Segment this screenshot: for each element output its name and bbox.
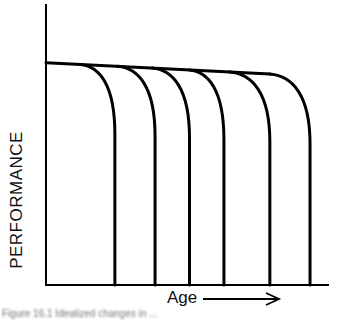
performance-curve-1 <box>80 64 114 285</box>
performance-curve-6 <box>270 74 310 285</box>
performance-curve-2 <box>118 66 155 285</box>
performance-curve-3 <box>152 68 189 285</box>
y-axis-label-text: PERFORMANCE <box>7 131 27 269</box>
performance-curve-5 <box>230 72 270 285</box>
figure-caption: Figure 16.1 Idealized changes in ... <box>2 308 158 319</box>
x-axis-label: Age <box>167 288 197 308</box>
performance-curves <box>46 63 310 285</box>
performance-age-diagram <box>0 0 341 320</box>
performance-curve-4 <box>190 70 224 285</box>
y-axis-label: PERFORMANCE <box>2 120 32 280</box>
